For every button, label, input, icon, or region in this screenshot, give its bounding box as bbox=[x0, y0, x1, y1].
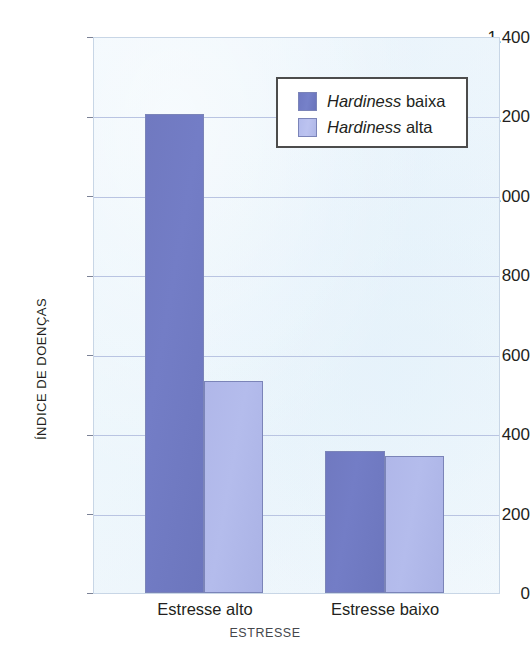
legend-label-italic-hardiness-alta: Hardiness bbox=[327, 118, 401, 136]
legend-label-hardiness-baixa: Hardiness baixa bbox=[327, 92, 445, 111]
legend-label-hardiness-alta: Hardiness alta bbox=[327, 118, 433, 137]
bar-estresse-baixo-hardiness-baixa bbox=[325, 451, 385, 593]
x-axis-title: ESTRESSE bbox=[0, 626, 530, 640]
chart-figure: ÍNDICE DE DOENÇAS 1.400 1.200 1.000 800 … bbox=[0, 0, 530, 660]
y-axis-title: ÍNDICE DE DOENÇAS bbox=[34, 298, 49, 440]
legend-label-plain-hardiness-alta: alta bbox=[406, 118, 433, 136]
legend-swatch-icon-hardiness-alta bbox=[298, 118, 317, 137]
x-tick-label-estresse-baixo: Estresse baixo bbox=[295, 600, 475, 619]
legend-label-plain-hardiness-baixa: baixa bbox=[406, 92, 445, 110]
bar-estresse-baixo-hardiness-alta bbox=[385, 456, 444, 593]
legend-label-italic-hardiness-baixa: Hardiness bbox=[327, 92, 401, 110]
legend-swatch-icon-hardiness-baixa bbox=[298, 92, 317, 111]
legend-item-hardiness-alta: Hardiness alta bbox=[298, 114, 466, 140]
bar-estresse-alto-hardiness-alta bbox=[204, 381, 263, 593]
x-tick-label-estresse-alto: Estresse alto bbox=[115, 600, 295, 619]
legend-item-hardiness-baixa: Hardiness baixa bbox=[298, 88, 466, 114]
chart-legend: Hardiness baixa Hardiness alta bbox=[276, 77, 468, 148]
bar-estresse-alto-hardiness-baixa bbox=[145, 114, 204, 593]
